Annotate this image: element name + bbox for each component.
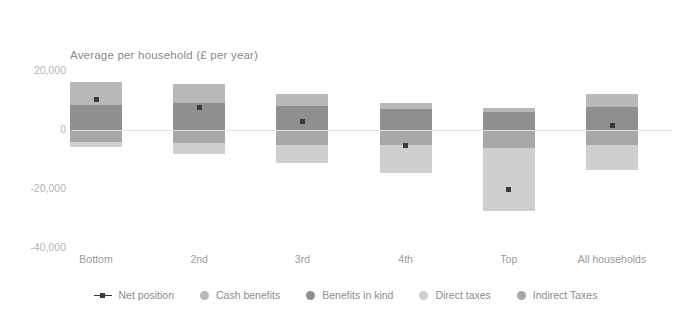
bar-segment <box>586 145 638 170</box>
legend-item-label: Benefits in kind <box>322 289 393 301</box>
legend-item[interactable]: Cash benefits <box>200 289 280 301</box>
legend-item[interactable]: Benefits in kind <box>306 289 393 301</box>
legend-swatch-icon <box>200 291 209 300</box>
bar-segment <box>483 130 535 148</box>
bar-segment <box>483 112 535 130</box>
legend-swatch-icon <box>419 291 428 300</box>
bar-group <box>586 0 638 320</box>
legend-item[interactable]: Direct taxes <box>419 289 490 301</box>
bar-segment <box>70 130 122 142</box>
bar-segment <box>483 148 535 211</box>
bar-segment <box>380 109 432 130</box>
bar-segment <box>586 94 638 107</box>
x-axis-label: Bottom <box>79 253 112 265</box>
net-position-icon <box>94 291 112 300</box>
bar-segment <box>380 103 432 110</box>
zero-baseline <box>72 130 672 131</box>
bar-segment <box>70 142 122 147</box>
bar-segment <box>483 108 535 112</box>
bar-segment <box>70 105 122 130</box>
net-position-marker <box>197 105 202 110</box>
bar-segment <box>173 143 225 153</box>
net-position-marker <box>610 123 615 128</box>
legend-item-label: Indirect Taxes <box>533 289 598 301</box>
legend-swatch-icon <box>306 291 315 300</box>
bar-group <box>173 0 225 320</box>
x-axis-label: Top <box>500 253 517 265</box>
x-axis-label: 3rd <box>295 253 310 265</box>
legend-item-label: Net position <box>119 289 174 301</box>
net-position-marker <box>300 119 305 124</box>
bar-segment <box>586 130 638 145</box>
x-axis-label: 2nd <box>190 253 208 265</box>
bar-group <box>276 0 328 320</box>
net-position-marker <box>94 97 99 102</box>
bar-segment <box>276 145 328 163</box>
chart-legend: Net positionCash benefitsBenefits in kin… <box>0 289 691 301</box>
x-axis-label: 4th <box>398 253 413 265</box>
bar-segment <box>173 130 225 143</box>
net-position-marker <box>403 143 408 148</box>
legend-item[interactable]: Net position <box>94 289 174 301</box>
bar-segment <box>173 84 225 103</box>
bar-segment <box>276 130 328 145</box>
x-axis-label: All households <box>578 253 646 265</box>
net-position-marker <box>506 187 511 192</box>
legend-swatch-icon <box>517 291 526 300</box>
bar-group <box>380 0 432 320</box>
bar-segment <box>276 94 328 106</box>
legend-item-label: Cash benefits <box>216 289 280 301</box>
legend-item[interactable]: Indirect Taxes <box>517 289 598 301</box>
plot-area <box>0 0 691 320</box>
legend-item-label: Direct taxes <box>435 289 490 301</box>
bar-group <box>70 0 122 320</box>
bar-segment <box>380 145 432 173</box>
bar-group <box>483 0 535 320</box>
chart-container: Average per household (£ per year) 20,00… <box>0 0 691 320</box>
